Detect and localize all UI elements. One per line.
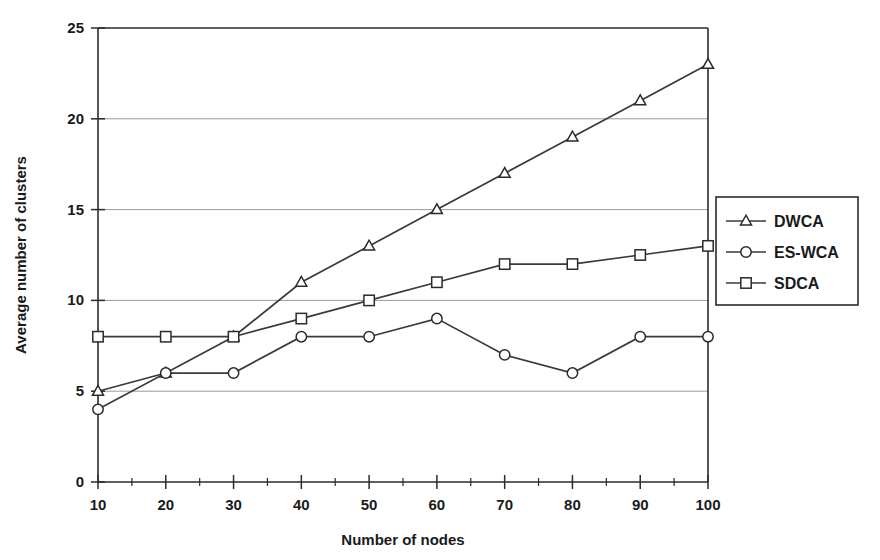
datapoint-es-wca-x60 xyxy=(432,313,442,323)
datapoint-sdca-x90 xyxy=(635,250,645,260)
x-tick-label-70: 70 xyxy=(496,496,513,513)
datapoint-es-wca-x70 xyxy=(499,350,509,360)
y-tick-label-15: 15 xyxy=(67,201,84,218)
y-tick-label-0: 0 xyxy=(76,473,84,490)
datapoint-es-wca-x20 xyxy=(161,368,171,378)
chart-figure: 0510152025 102030405060708090100 Number … xyxy=(0,0,880,560)
legend-label-sdca: SDCA xyxy=(774,275,820,292)
datapoint-sdca-x70 xyxy=(499,259,509,269)
legend-label-es-wca: ES-WCA xyxy=(774,244,839,261)
datapoint-sdca-x60 xyxy=(432,277,442,287)
legend-label-dwca: DWCA xyxy=(774,213,824,230)
x-tick-label-40: 40 xyxy=(293,496,310,513)
datapoint-es-wca-x90 xyxy=(635,332,645,342)
datapoint-es-wca-x80 xyxy=(567,368,577,378)
y-tick-label-25: 25 xyxy=(67,19,84,36)
datapoint-es-wca-x10 xyxy=(93,404,103,414)
y-tick-label-10: 10 xyxy=(67,291,84,308)
datapoint-es-wca-x30 xyxy=(228,368,238,378)
datapoint-sdca-x50 xyxy=(364,295,374,305)
x-tick-label-30: 30 xyxy=(225,496,242,513)
legend-marker-circle xyxy=(741,247,751,257)
datapoint-sdca-x10 xyxy=(93,332,103,342)
x-tick-label-10: 10 xyxy=(90,496,107,513)
datapoint-es-wca-x100 xyxy=(703,332,713,342)
x-tick-label-20: 20 xyxy=(157,496,174,513)
y-tick-label-5: 5 xyxy=(76,382,84,399)
x-tick-label-50: 50 xyxy=(361,496,378,513)
x-tick-label-80: 80 xyxy=(564,496,581,513)
x-tick-label-60: 60 xyxy=(429,496,446,513)
x-tick-label-90: 90 xyxy=(632,496,649,513)
datapoint-es-wca-x50 xyxy=(364,332,374,342)
line-chart: 0510152025 102030405060708090100 Number … xyxy=(0,0,880,560)
y-tick-label-20: 20 xyxy=(67,110,84,127)
datapoint-sdca-x100 xyxy=(703,241,713,251)
y-axis-title: Average number of clusters xyxy=(12,156,29,354)
datapoint-sdca-x30 xyxy=(228,332,238,342)
x-axis-title: Number of nodes xyxy=(341,531,464,548)
legend-marker-square xyxy=(741,278,751,288)
datapoint-sdca-x80 xyxy=(567,259,577,269)
datapoint-sdca-x20 xyxy=(161,332,171,342)
chart-legend: DWCAES-WCASDCA xyxy=(716,197,858,305)
x-tick-label-100: 100 xyxy=(695,496,720,513)
datapoint-sdca-x40 xyxy=(296,313,306,323)
datapoint-es-wca-x40 xyxy=(296,332,306,342)
